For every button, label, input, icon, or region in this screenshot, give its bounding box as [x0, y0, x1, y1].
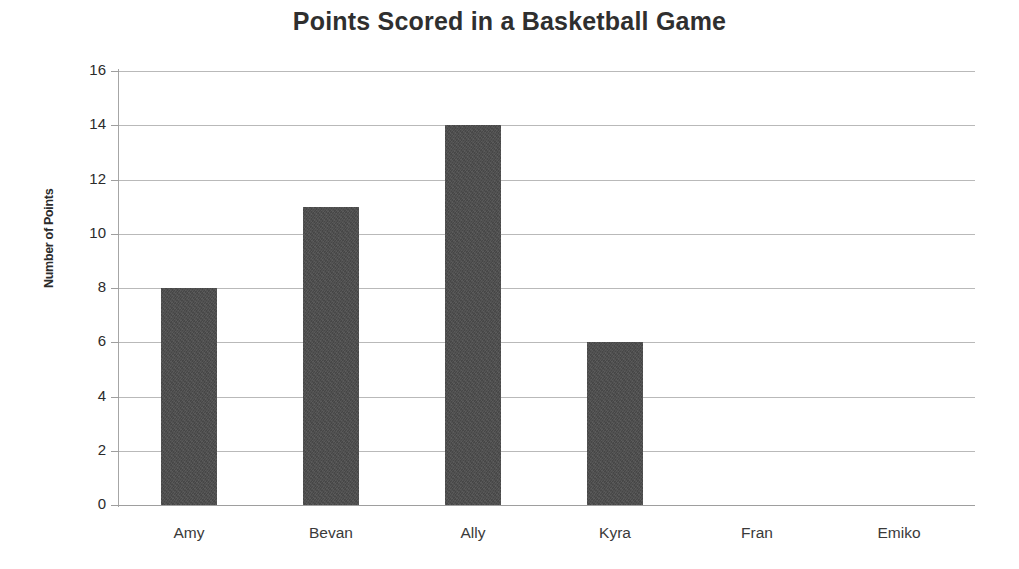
- y-axis-tick-label: 4: [46, 387, 106, 404]
- y-axis-tick: [111, 71, 119, 72]
- y-axis-tick: [111, 288, 119, 289]
- y-axis-tick: [111, 125, 119, 126]
- y-axis-tick-label: 2: [46, 441, 106, 458]
- x-axis-tick-label-ally: Ally: [461, 524, 486, 542]
- y-axis-tick: [111, 234, 119, 235]
- gridline: [119, 505, 975, 506]
- y-axis-tick-labels: 0246810121416: [40, 0, 106, 569]
- bar-amy[interactable]: [161, 288, 217, 505]
- y-axis-tick: [111, 505, 119, 506]
- chart-title: Points Scored in a Basketball Game: [0, 7, 1019, 36]
- x-axis-tick-label-bevan: Bevan: [309, 524, 353, 542]
- x-axis-tick-label-fran: Fran: [741, 524, 773, 542]
- bar-kyra[interactable]: [587, 342, 643, 505]
- y-axis-tick: [111, 397, 119, 398]
- y-axis-tick: [111, 342, 119, 343]
- bar-bevan[interactable]: [303, 207, 359, 505]
- gridline: [119, 180, 975, 181]
- gridline: [119, 234, 975, 235]
- gridline: [119, 451, 975, 452]
- gridline: [119, 288, 975, 289]
- gridline: [119, 125, 975, 126]
- y-axis-tick: [111, 180, 119, 181]
- x-axis-tick-label-amy: Amy: [174, 524, 205, 542]
- bar-ally[interactable]: [445, 125, 501, 505]
- x-axis-tick-labels: AmyBevanAllyKyraFranEmiko: [119, 524, 975, 552]
- y-axis-tick-label: 6: [46, 332, 106, 349]
- plot-area: [119, 71, 975, 505]
- y-axis-tick-label: 14: [46, 115, 106, 132]
- gridline: [119, 397, 975, 398]
- y-axis-tick: [111, 451, 119, 452]
- x-axis-tick-label-kyra: Kyra: [599, 524, 631, 542]
- gridline: [119, 71, 975, 72]
- y-axis-tick-label: 0: [46, 495, 106, 512]
- y-axis-tick-label: 12: [46, 170, 106, 187]
- x-axis-tick-label-emiko: Emiko: [877, 524, 920, 542]
- y-axis-tick-label: 8: [46, 278, 106, 295]
- y-axis-tick-label: 10: [46, 224, 106, 241]
- y-axis-tick-label: 16: [46, 61, 106, 78]
- gridline: [119, 342, 975, 343]
- bar-chart-figure: Points Scored in a Basketball Game Numbe…: [0, 0, 1019, 569]
